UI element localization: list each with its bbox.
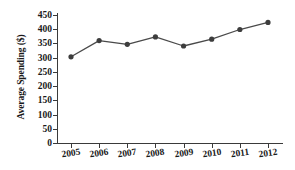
y-tick-mark (53, 72, 57, 73)
data-point-marker (181, 43, 186, 48)
y-tick-label: 50 (26, 124, 52, 134)
y-tick-mark (53, 15, 57, 16)
y-tick-mark (53, 43, 57, 44)
y-tick-label: 0 (26, 138, 52, 148)
data-point-marker (68, 54, 73, 59)
data-point-marker (237, 27, 242, 32)
y-tick-label: 450 (26, 10, 52, 20)
y-tick-mark (53, 58, 57, 59)
data-point-marker (153, 34, 158, 39)
y-axis-tick-labels: 050100150200250300350400450 (26, 10, 52, 148)
y-tick-label: 200 (26, 81, 52, 91)
y-tick-label: 400 (26, 24, 52, 34)
data-point-marker (97, 38, 102, 43)
y-tick-label: 350 (26, 38, 52, 48)
y-tick-label: 100 (26, 110, 52, 120)
y-tick-mark (53, 100, 57, 101)
data-point-marker (209, 37, 214, 42)
x-axis-line (57, 143, 283, 144)
y-tick-label: 300 (26, 53, 52, 63)
y-tick-mark (53, 143, 57, 144)
series-markers (68, 20, 270, 60)
y-tick-mark (53, 86, 57, 87)
data-point-marker (265, 20, 270, 25)
line-chart: Average Spending ($) 0501001502002503003… (0, 0, 295, 170)
y-tick-mark (53, 129, 57, 130)
y-tick-label: 150 (26, 95, 52, 105)
plot-area (57, 15, 282, 143)
y-tick-mark (53, 115, 57, 116)
y-tick-mark (53, 29, 57, 30)
y-tick-label: 250 (26, 67, 52, 77)
data-point-marker (125, 42, 130, 47)
data-series-average-spending (57, 15, 282, 143)
x-axis-tick-labels: 20052006200720082009201020112012 (57, 148, 289, 168)
